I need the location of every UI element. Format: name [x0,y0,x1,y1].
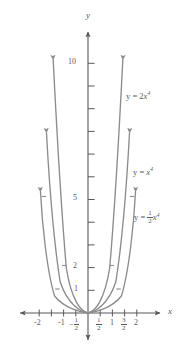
quartic-curves-figure: y x 10 5 2 1 -2 -1 −12 12 1 32 2 y = 2x4… [0,0,183,361]
xtick-label-neg-half: −12 [69,317,79,332]
ytick-label-5: 5 [73,194,77,202]
curve-label-2x4-exp: 4 [147,90,150,96]
ytick-label-10: 10 [68,58,76,66]
xtick-label-1: 1 [110,319,114,327]
xtick-label-2: 2 [134,319,138,327]
x-axis-label: x [168,307,172,316]
curve-label-half-x4-lhs: y = [134,212,147,222]
curve-label-half-x4-exp: 4 [157,212,160,218]
curve-label-x4: y = x4 [133,166,153,176]
ytick-label-1: 1 [74,285,78,293]
y-axis-label: y [86,11,90,20]
curve-label-x4-exp: 4 [150,166,153,172]
curve-label-x4-lhs: y = [133,167,146,177]
xtick-label-three-halves: 32 [121,317,127,332]
xtick-label-neg1: -1 [58,319,65,327]
xtick-label-neg2: -2 [34,319,41,327]
y-axis [85,32,94,340]
curve-label-half-x4: y = 12x4 [134,210,160,225]
curve-label-2x4: y = 2x4 [126,90,150,100]
graph-canvas [0,0,183,361]
xtick-label-half: 12 [96,317,102,332]
curve-label-2x4-lhs: y = [126,91,139,101]
ytick-label-2: 2 [73,262,77,270]
